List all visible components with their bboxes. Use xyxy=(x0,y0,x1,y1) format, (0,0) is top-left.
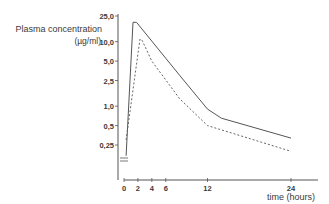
x-tick-label: 0 xyxy=(122,184,126,193)
axis-break-icon xyxy=(120,158,128,161)
y-axis-label: Plasma concentration xyxy=(15,24,102,34)
y-tick-label: 5,0 xyxy=(104,57,114,66)
series-group xyxy=(126,22,291,156)
y-tick-label: 10,0 xyxy=(99,38,114,47)
y-tick-label: 1,0 xyxy=(104,102,114,111)
x-tick-label: 12 xyxy=(203,184,211,193)
series-line-dashed xyxy=(126,39,291,151)
y-tick-label: 2,5 xyxy=(104,77,114,86)
y-tick-label: 25,0 xyxy=(99,12,114,21)
x-tick-label: 2 xyxy=(136,184,140,193)
y-tick-label: 0,25 xyxy=(99,141,114,150)
pk-chart: Plasma concentration (µg/ml) 25,010,05,0… xyxy=(0,0,329,204)
y-axis-ticks: 25,010,05,02,51,00,50,25 xyxy=(99,12,118,150)
x-tick-label: 4 xyxy=(150,184,155,193)
y-axis-unit: (µg/ml) xyxy=(74,36,101,46)
y-tick-label: 0,5 xyxy=(104,122,114,131)
x-tick-label: 6 xyxy=(164,184,168,193)
series-line-solid xyxy=(126,22,291,156)
x-axis-label: time (hours) xyxy=(267,192,315,202)
